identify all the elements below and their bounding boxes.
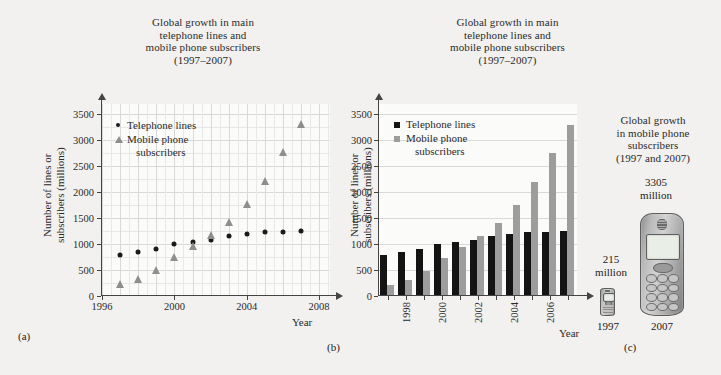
x-tick <box>496 296 497 300</box>
gridline-vertical <box>202 104 203 296</box>
y-tick <box>374 218 378 219</box>
gridline-horizontal <box>102 114 330 115</box>
x-tick <box>550 296 551 300</box>
x-tick <box>460 296 461 300</box>
chart-a-title-line2: telephone lines and <box>88 29 318 42</box>
y-tick-label: 1500 <box>52 213 94 224</box>
bar-telephone-2002 <box>470 240 477 296</box>
data-point-telephone-2007 <box>299 228 304 233</box>
phone-key <box>668 284 679 293</box>
gridline-horizontal <box>102 179 330 180</box>
gridline-horizontal <box>102 192 330 193</box>
phone-key <box>668 303 679 312</box>
x-tick-label: 1996 <box>92 301 113 312</box>
chart-a-legend-label-telephone-lines: Telephone lines <box>127 119 196 131</box>
phone-earpiece-2007 <box>657 219 667 230</box>
x-tick <box>406 296 407 300</box>
pictogram-year-1997: 1997 <box>587 320 629 332</box>
gridline-vertical <box>301 104 302 296</box>
chart-c-title-line1: Global growth <box>585 114 721 127</box>
bar-mobile-2001 <box>459 247 466 296</box>
x-tick <box>568 296 569 300</box>
y-tick <box>97 166 101 167</box>
y-tick-label: 1500 <box>330 213 372 224</box>
bar-mobile-2006 <box>549 153 556 296</box>
gridline-vertical <box>274 104 275 296</box>
chart-a-x-axis-title: Year <box>292 316 312 328</box>
bar-mobile-2005 <box>531 182 538 296</box>
y-tick-label: 0 <box>330 291 372 302</box>
chart-a-legend-label-mobile-line1: Mobile phone <box>127 133 188 145</box>
chart-b-title-line4: (1997–2007) <box>400 54 615 67</box>
data-point-telephone-2003 <box>226 234 231 239</box>
phone-earpiece-1997 <box>605 290 610 292</box>
gray-square-marker-icon <box>394 136 400 142</box>
chart-a-legend-item-telephone-lines: Telephone lines <box>114 119 196 133</box>
chart-a-title: Global growth in main telephone lines an… <box>88 16 318 66</box>
pictogram-value-2007-unit: million <box>621 189 691 202</box>
y-tick-label: 3000 <box>52 135 94 146</box>
y-tick-label: 500 <box>52 265 94 276</box>
chart-b-title-line3: mobile phone subscribers <box>400 41 615 54</box>
panel-b-bar-chart: Global growth in main telephone lines an… <box>330 0 600 375</box>
chart-b-title-line2: telephone lines and <box>400 29 615 42</box>
x-tick-label: 2000 <box>164 301 185 312</box>
panel-a-caption: (a) <box>18 330 30 342</box>
bar-telephone-1997 <box>380 255 387 296</box>
bar-telephone-2000 <box>434 244 441 296</box>
phone-key <box>646 274 657 283</box>
data-point-mobile-2007 <box>297 120 305 128</box>
bar-mobile-1999 <box>423 271 430 296</box>
gridline-horizontal <box>102 257 330 258</box>
x-tick <box>442 296 443 300</box>
x-tick-label: 2008 <box>309 301 330 312</box>
gridline-horizontal <box>102 218 330 219</box>
gridline-vertical <box>256 104 257 296</box>
phone-screen-2007 <box>646 234 680 260</box>
data-point-telephone-1998 <box>136 249 141 254</box>
chart-a-title-line3: mobile phone subscribers <box>88 41 318 54</box>
y-tick-label: 500 <box>330 265 372 276</box>
gridline-horizontal <box>102 231 330 232</box>
phone-key <box>657 274 668 283</box>
chart-a-y-axis <box>101 100 102 296</box>
gridline-vertical <box>283 104 284 296</box>
chart-a-y-axis-arrow <box>98 93 106 100</box>
y-tick <box>374 244 378 245</box>
pictogram-value-1997: 215 million <box>587 253 635 278</box>
phone-key <box>657 303 668 312</box>
x-tick <box>388 296 389 300</box>
data-point-mobile-1998 <box>134 275 142 283</box>
y-tick-label: 2500 <box>52 161 94 172</box>
black-square-marker-icon <box>394 122 400 128</box>
y-tick-label: 1000 <box>330 239 372 250</box>
chart-b-x-axis-title: Year <box>559 327 579 339</box>
y-tick <box>374 296 378 297</box>
chart-b-y-axis <box>378 100 379 296</box>
gridline-horizontal <box>102 244 330 245</box>
gridline-vertical <box>211 104 212 296</box>
bar-telephone-2006 <box>542 232 549 296</box>
data-point-mobile-1999 <box>152 266 160 274</box>
chart-a-x-axis <box>101 295 337 296</box>
y-tick <box>97 140 101 141</box>
chart-a-legend-label-mobile-line2-wrap: subscribers <box>114 146 196 160</box>
phone-key <box>668 293 679 302</box>
gridline-vertical <box>229 104 230 296</box>
phone-key <box>668 274 679 283</box>
x-tick <box>102 296 103 300</box>
bar-telephone-1998 <box>398 252 405 296</box>
data-point-telephone-2000 <box>172 242 177 247</box>
triangle-marker-icon <box>115 136 123 143</box>
chart-b-title: Global growth in main telephone lines an… <box>400 16 615 66</box>
y-tick-label: 3500 <box>52 109 94 120</box>
circle-marker-icon <box>116 123 120 127</box>
gridline-vertical <box>319 104 320 296</box>
data-point-telephone-1999 <box>154 247 159 252</box>
bar-telephone-2001 <box>452 242 459 296</box>
bar-telephone-2005 <box>524 232 531 296</box>
x-tick <box>247 296 248 300</box>
chart-b-title-line1: Global growth in main <box>400 16 615 29</box>
chart-c-title-line3: subscribers <box>585 139 721 152</box>
panel-c-pictogram: Global growth in mobile phone subscriber… <box>585 0 721 375</box>
